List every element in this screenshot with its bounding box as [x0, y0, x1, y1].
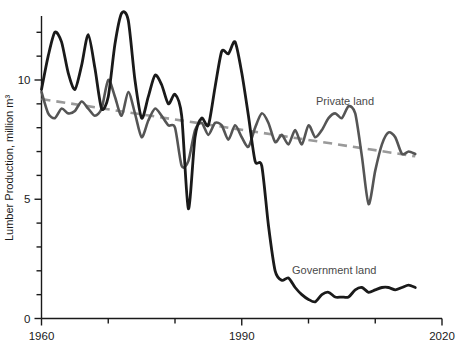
x-tick-label: 1990	[229, 330, 255, 342]
private-land-label: Private land	[316, 95, 374, 107]
y-tick-label: 10	[18, 74, 31, 86]
x-tick-label: 2020	[429, 330, 455, 342]
y-tick-label: 0	[24, 313, 30, 325]
government-land-label: Government land	[292, 264, 376, 276]
y-axis-title: Lumber Production, million m³	[3, 95, 15, 241]
chart-background	[0, 0, 465, 343]
y-tick-label: 5	[24, 193, 30, 205]
chart-plot-area: 0510 196019902020 Lumber Production, mil…	[0, 0, 465, 343]
lumber-production-chart: 0510 196019902020 Lumber Production, mil…	[0, 0, 465, 343]
x-tick-label: 1960	[29, 330, 55, 342]
